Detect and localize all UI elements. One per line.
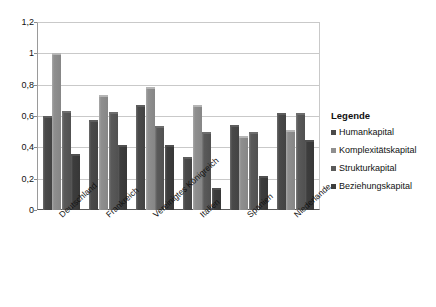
x-tick-label: Spanien [245, 212, 252, 219]
x-tick-label: Niederlande [292, 212, 299, 219]
bar[interactable] [62, 111, 71, 210]
legend-item-label: Strukturkapital [339, 163, 397, 173]
legend-item[interactable]: Strukturkapital [331, 163, 435, 173]
bar[interactable] [296, 113, 305, 210]
legend-item[interactable]: Beziehungskapital [331, 181, 435, 191]
y-tick-label: 1 [2, 49, 34, 58]
y-axis: 00,20,40,60,811,2 [0, 22, 34, 210]
bar[interactable] [43, 116, 52, 210]
bar[interactable] [146, 87, 155, 210]
bar-group [38, 22, 85, 210]
legend-item[interactable]: Humankapital [331, 127, 435, 137]
legend: Legende Humankapital Komplexitätskapital… [331, 110, 435, 199]
bar-fill [155, 126, 164, 210]
bar-group [225, 22, 272, 210]
x-tick-label: Frankreich [104, 212, 111, 219]
bar-fill [89, 120, 98, 210]
bar[interactable] [155, 126, 164, 210]
bar-fill [249, 132, 258, 210]
bar-fill [230, 125, 239, 210]
legend-item-label: Humankapital [339, 127, 394, 137]
legend-item[interactable]: Komplexitätskapital [331, 145, 435, 155]
y-tick-label: 1,2 [2, 18, 34, 27]
x-tick-label: Italien [198, 212, 205, 219]
bar-group [272, 22, 319, 210]
bar-group [132, 22, 179, 210]
bar-fill [193, 105, 202, 210]
bar[interactable] [109, 112, 118, 210]
bar-fill [296, 113, 305, 210]
bar-fill [286, 130, 295, 210]
y-tick-label: 0 [2, 206, 34, 215]
legend-swatch-icon [331, 166, 336, 171]
bar[interactable] [277, 113, 286, 210]
bar-fill [62, 111, 71, 210]
y-tick-label: 0,6 [2, 112, 34, 121]
legend-swatch-icon [331, 148, 336, 153]
bar[interactable] [249, 132, 258, 210]
bar[interactable] [89, 120, 98, 210]
bar-fill [99, 95, 108, 210]
bar-fill [52, 53, 61, 210]
y-tick-label: 0,8 [2, 80, 34, 89]
x-tick-label: Deutschland [57, 212, 64, 219]
bar[interactable] [230, 125, 239, 210]
bar-chart: 00,20,40,60,811,2 DeutschlandFrankreichV… [0, 0, 436, 307]
y-tick-mark [34, 210, 37, 211]
bar-fill [277, 113, 286, 210]
bar-fill [146, 87, 155, 210]
bar-fill [43, 116, 52, 210]
legend-swatch-icon [331, 130, 336, 135]
y-tick-label: 0,4 [2, 143, 34, 152]
x-tick-label: Vereinigtes Königreich [151, 212, 158, 219]
legend-item-label: Komplexitätskapital [339, 145, 417, 155]
bars-layer [38, 22, 319, 210]
y-tick-label: 0,2 [2, 174, 34, 183]
bar[interactable] [99, 95, 108, 210]
bar[interactable] [193, 105, 202, 210]
bar-fill [239, 136, 248, 210]
bar[interactable] [286, 130, 295, 210]
legend-title: Legende [331, 110, 435, 121]
bar-fill [109, 112, 118, 210]
legend-swatch-icon [331, 184, 336, 189]
bar[interactable] [52, 53, 61, 210]
bar[interactable] [239, 136, 248, 210]
x-axis: DeutschlandFrankreichVereinigtes Königre… [38, 212, 319, 292]
legend-item-label: Beziehungskapital [339, 181, 412, 191]
